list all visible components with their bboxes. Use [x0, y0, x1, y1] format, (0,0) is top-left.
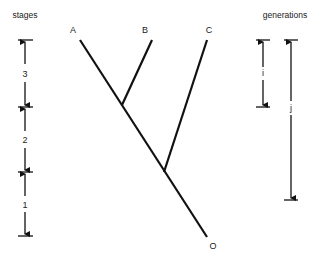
- branch-b: [122, 40, 152, 105]
- stage-2-label: 2: [22, 135, 27, 145]
- generation-j-label: j: [289, 103, 292, 113]
- tip-b-label: B: [142, 25, 148, 35]
- root-o-label: O: [209, 241, 216, 251]
- tip-c-label: C: [206, 25, 213, 35]
- stage-1-label: 1: [22, 200, 27, 210]
- tip-a-label: A: [70, 25, 76, 35]
- branch-a-to-root: [80, 40, 207, 237]
- generations-scale: [256, 40, 298, 200]
- phylogeny-diagram: stages 3 2 1 generations i j A B: [0, 0, 315, 262]
- stages-title: stages: [12, 10, 37, 20]
- branch-c: [164, 40, 207, 172]
- generation-i-label: i: [262, 68, 264, 78]
- stage-3-label: 3: [22, 69, 27, 79]
- generations-title: generations: [263, 10, 307, 20]
- phylogenetic-tree: [80, 40, 207, 237]
